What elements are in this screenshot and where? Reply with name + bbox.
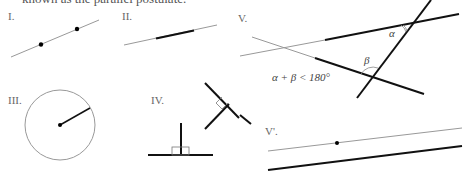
lower-line-tail	[240, 115, 251, 124]
parallel-line	[268, 128, 462, 151]
beta-label: β	[363, 54, 370, 66]
rotated-perpendicular	[205, 104, 229, 129]
figure-v-prime-label: V'.	[265, 125, 278, 137]
center-point	[58, 123, 62, 127]
angle-sum-inequality: α + β < 180°	[272, 71, 331, 83]
figure-iii: III.	[8, 90, 95, 160]
figure-iv: IV.	[148, 83, 239, 155]
line-through-two-points	[11, 20, 99, 57]
external-point	[335, 141, 339, 145]
alpha-label: α	[389, 27, 395, 39]
figure-iii-label: III.	[8, 94, 22, 106]
figure-i-label: I.	[8, 10, 15, 22]
figure-i: I.	[8, 10, 99, 57]
figure-v-prime: V'.	[240, 115, 462, 170]
lower-line-extension	[252, 37, 315, 58]
upper-line-extension	[240, 40, 325, 56]
radius	[60, 108, 90, 125]
figure-v: V. α β α + β < 180°	[238, 0, 459, 98]
postulates-diagram: I. II. V. α β α + β < 180° III. IV.	[0, 0, 471, 179]
figure-iv-label: IV.	[151, 94, 164, 106]
lower-line	[315, 58, 424, 94]
figure-ii: II.	[122, 10, 217, 45]
given-line	[268, 146, 462, 170]
point-a	[39, 42, 43, 46]
finite-segment	[156, 31, 194, 39]
rotated-line	[205, 83, 239, 118]
figure-ii-label: II.	[122, 10, 132, 22]
point-b	[75, 27, 79, 31]
figure-v-label: V.	[238, 12, 248, 24]
